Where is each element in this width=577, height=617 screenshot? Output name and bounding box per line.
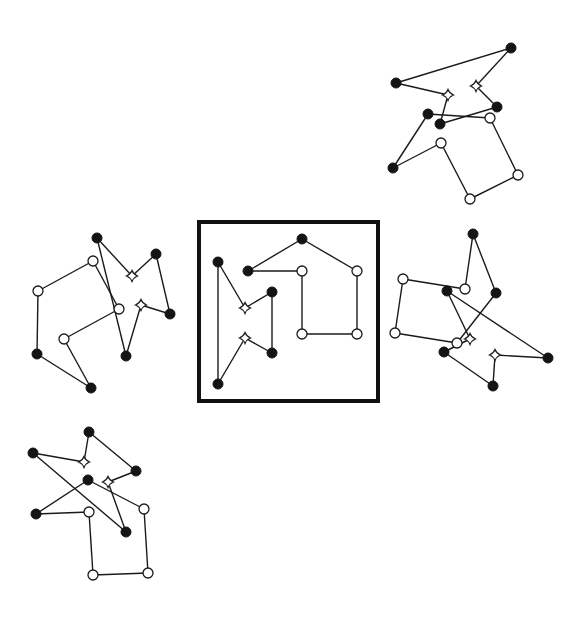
filled-node-icon xyxy=(213,257,223,267)
filled-node-icon xyxy=(391,78,401,88)
filled-node-icon xyxy=(488,381,498,391)
edge-p9-p1 xyxy=(97,238,126,356)
edge-r9-r7 xyxy=(89,512,93,575)
open-node-icon xyxy=(139,504,149,514)
star-node-icon xyxy=(465,334,476,345)
filled-node-icon xyxy=(435,119,445,129)
edge-p2-p6 xyxy=(156,254,170,314)
filled-node-icon xyxy=(28,448,38,458)
star-node-icon xyxy=(103,477,114,488)
figure-option-top-right xyxy=(388,43,523,204)
open-node-icon xyxy=(460,284,470,294)
edge-r7-r6 xyxy=(36,512,89,514)
figure-option-bottom-left xyxy=(28,427,153,580)
open-node-icon xyxy=(465,194,475,204)
open-node-icon xyxy=(143,568,153,578)
filled-node-icon xyxy=(31,509,41,519)
star-node-icon xyxy=(79,457,90,468)
edge-r2-s1 xyxy=(33,453,84,462)
open-node-icon xyxy=(33,286,43,296)
figure-option-right xyxy=(390,229,553,391)
edge-q8-q10 xyxy=(444,352,493,386)
edge-r1-r3 xyxy=(89,432,136,471)
filled-node-icon xyxy=(131,466,141,476)
edge-p8-p10 xyxy=(37,354,91,388)
filled-node-icon xyxy=(491,288,501,298)
open-node-icon xyxy=(436,138,446,148)
edge-d-f xyxy=(428,114,490,118)
edge-s1-b xyxy=(396,83,448,95)
edge-r6-r4 xyxy=(36,480,88,514)
diagram-canvas xyxy=(0,0,577,617)
edge-c1-s1 xyxy=(218,262,245,308)
open-node-icon xyxy=(59,334,69,344)
open-node-icon xyxy=(390,328,400,338)
filled-node-icon xyxy=(165,309,175,319)
edge-j-g xyxy=(441,143,470,199)
edge-p3-p4 xyxy=(38,261,93,291)
open-node-icon xyxy=(297,329,307,339)
filled-node-icon xyxy=(506,43,516,53)
figure-option-left xyxy=(32,233,175,393)
open-node-icon xyxy=(513,170,523,180)
filled-node-icon xyxy=(213,379,223,389)
filled-node-icon xyxy=(423,109,433,119)
edge-i-j xyxy=(470,175,518,199)
filled-node-icon xyxy=(492,102,502,112)
filled-node-icon xyxy=(84,427,94,437)
open-node-icon xyxy=(452,338,462,348)
edge-s2-c10 xyxy=(218,338,245,384)
open-node-icon xyxy=(88,570,98,580)
filled-node-icon xyxy=(83,475,93,485)
edge-q7-q5 xyxy=(457,293,496,343)
edge-p5-p3 xyxy=(93,261,119,309)
edge-s2-p9 xyxy=(126,305,141,356)
open-node-icon xyxy=(114,304,124,314)
filled-node-icon xyxy=(267,287,277,297)
edge-r5-r10 xyxy=(144,509,148,573)
filled-node-icon xyxy=(151,249,161,259)
filled-node-icon xyxy=(543,353,553,363)
open-node-icon xyxy=(352,266,362,276)
edge-c2-c5 xyxy=(302,239,357,271)
edge-b-a xyxy=(396,48,511,83)
edge-f-i xyxy=(490,118,518,175)
filled-node-icon xyxy=(32,349,42,359)
open-node-icon xyxy=(84,507,94,517)
figures-layer xyxy=(28,43,553,580)
figure-reference xyxy=(213,234,362,389)
figure-diagram xyxy=(0,0,577,617)
edge-q9-q4 xyxy=(447,291,548,358)
star-node-icon xyxy=(443,90,454,101)
filled-node-icon xyxy=(388,163,398,173)
filled-node-icon xyxy=(297,234,307,244)
edge-c3-c2 xyxy=(248,239,302,271)
open-node-icon xyxy=(352,329,362,339)
edge-p4-p8 xyxy=(37,291,38,354)
filled-node-icon xyxy=(468,229,478,239)
filled-node-icon xyxy=(86,383,96,393)
filled-node-icon xyxy=(267,348,277,358)
edge-h-d xyxy=(393,114,428,168)
open-node-icon xyxy=(88,256,98,266)
star-node-icon xyxy=(136,300,147,311)
edge-q6-q7 xyxy=(395,333,457,343)
filled-node-icon xyxy=(439,347,449,357)
edge-p10-p7 xyxy=(64,339,91,388)
edge-s2-q9 xyxy=(495,355,548,358)
filled-node-icon xyxy=(121,527,131,537)
edge-q2-q6 xyxy=(395,279,403,333)
filled-node-icon xyxy=(121,351,131,361)
edge-q5-q1 xyxy=(473,234,496,293)
open-node-icon xyxy=(485,113,495,123)
open-node-icon xyxy=(297,266,307,276)
star-node-icon xyxy=(490,350,501,361)
star-node-icon xyxy=(240,303,251,314)
edge-q1-q3 xyxy=(465,234,473,289)
edge-p7-p5 xyxy=(64,309,119,339)
filled-node-icon xyxy=(442,286,452,296)
edge-g-h xyxy=(393,143,441,168)
reference-frame xyxy=(199,222,378,401)
edge-r10-r9 xyxy=(93,573,148,575)
open-node-icon xyxy=(398,274,408,284)
